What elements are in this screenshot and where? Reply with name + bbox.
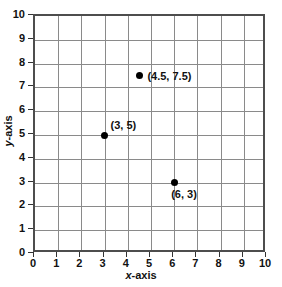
data-point-marker (171, 179, 178, 186)
y-tick-mark (28, 133, 33, 134)
x-tick-label: 0 (23, 257, 43, 269)
gridline-horizontal (35, 64, 263, 65)
x-axis-title: x-axis (0, 269, 282, 281)
x-tick-label: 2 (69, 257, 89, 269)
y-tick-mark (28, 204, 33, 205)
x-tick-label: 7 (185, 257, 205, 269)
y-axis-title: y-axis (2, 101, 14, 161)
x-tick-label: 6 (162, 257, 182, 269)
y-tick-mark (28, 85, 33, 86)
x-tick-label: 1 (46, 257, 66, 269)
data-point-label: (4.5, 7.5) (147, 70, 191, 82)
y-tick-label: 10 (4, 8, 25, 20)
data-point-marker (136, 72, 143, 79)
gridline-vertical (128, 16, 129, 250)
data-point-marker (101, 132, 108, 139)
gridline-vertical (221, 16, 222, 250)
gridline-horizontal (35, 135, 263, 136)
gridline-horizontal (35, 159, 263, 160)
gridline-horizontal (35, 183, 263, 184)
gridline-vertical (197, 16, 198, 250)
y-tick-mark (28, 252, 33, 253)
y-tick-label: 0 (4, 246, 25, 258)
y-tick-label: 9 (4, 32, 25, 44)
x-axis-title-suffix: -axis (132, 269, 157, 281)
y-tick-label: 3 (4, 175, 25, 187)
x-tick-label: 3 (93, 257, 113, 269)
gridline-horizontal (35, 230, 263, 231)
data-point-label: (3, 5) (111, 119, 137, 131)
y-tick-label: 2 (4, 198, 25, 210)
gridline-horizontal (35, 40, 263, 41)
coordinate-plane-figure: (3, 5)(4.5, 7.5)(6, 3) 012345678910 0123… (0, 0, 282, 287)
y-axis-title-suffix: -axis (2, 115, 14, 140)
x-tick-label: 9 (232, 257, 252, 269)
y-tick-label: 8 (4, 56, 25, 68)
x-tick-label: 10 (255, 257, 275, 269)
plot-area: (3, 5)(4.5, 7.5)(6, 3) (33, 14, 265, 252)
y-tick-mark (28, 157, 33, 158)
y-tick-mark (28, 38, 33, 39)
gridline-vertical (81, 16, 82, 250)
x-tick-label: 4 (116, 257, 136, 269)
y-tick-mark (28, 109, 33, 110)
gridline-horizontal (35, 206, 263, 207)
y-axis-title-italic: y (2, 140, 14, 146)
gridline-horizontal (35, 87, 263, 88)
gridline-horizontal (35, 111, 263, 112)
gridline-vertical (244, 16, 245, 250)
y-tick-label: 7 (4, 79, 25, 91)
y-tick-label: 1 (4, 222, 25, 234)
gridline-vertical (151, 16, 152, 250)
gridline-vertical (174, 16, 175, 250)
gridline-vertical (58, 16, 59, 250)
x-tick-label: 5 (139, 257, 159, 269)
y-tick-mark (28, 62, 33, 63)
x-tick-label: 8 (209, 257, 229, 269)
data-point-label: (6, 3) (171, 188, 197, 200)
y-tick-mark (28, 228, 33, 229)
y-tick-mark (28, 14, 33, 15)
y-tick-mark (28, 181, 33, 182)
